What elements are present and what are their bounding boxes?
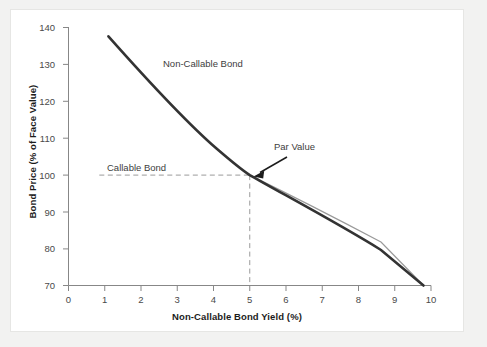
x-tick-label-6: 6 — [274, 294, 298, 305]
non-callable-bond-curve — [108, 36, 423, 285]
x-tick-label-2: 2 — [129, 294, 153, 305]
y-axis-title: Bond Price (% of Face Value) — [27, 72, 38, 232]
x-tick-label-9: 9 — [383, 294, 407, 305]
x-tick-label-1: 1 — [93, 294, 117, 305]
par-value-label: Par Value — [274, 141, 315, 152]
x-tick-label-0: 0 — [57, 294, 81, 305]
x-tick-label-3: 3 — [165, 294, 189, 305]
x-axis-title: Non-Callable Bond Yield (%) — [11, 311, 463, 322]
non-callable-bond-label: Non-Callable Bond — [163, 58, 243, 69]
x-tick-label-8: 8 — [347, 294, 371, 305]
x-axis-ticks — [69, 286, 432, 292]
y-tick-label-140: 140 — [25, 22, 55, 33]
x-tick-label-10: 10 — [419, 294, 443, 305]
par-value-arrow — [254, 157, 288, 178]
y-tick-label-70: 70 — [25, 280, 55, 291]
x-tick-label-7: 7 — [310, 294, 334, 305]
y-tick-label-80: 80 — [25, 243, 55, 254]
x-tick-label-4: 4 — [202, 294, 226, 305]
y-tick-label-130: 130 — [25, 59, 55, 70]
page-background: 140 130 120 110 100 90 80 70 0 1 2 3 4 5… — [0, 0, 487, 347]
chart-figure: 140 130 120 110 100 90 80 70 0 1 2 3 4 5… — [11, 10, 463, 331]
callable-bond-tail — [250, 175, 424, 285]
callable-bond-label: Callable Bond — [107, 162, 166, 173]
x-tick-label-5: 5 — [238, 294, 262, 305]
y-axis-ticks — [63, 28, 69, 286]
